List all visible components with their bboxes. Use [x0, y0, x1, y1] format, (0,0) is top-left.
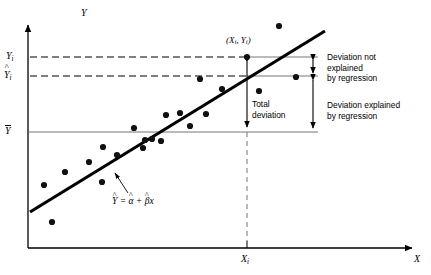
scatter-point	[100, 144, 106, 150]
reference-lines	[28, 57, 318, 132]
unexplained-deviation-annotation: Deviation not explained by regression	[327, 52, 377, 84]
y-tick-label-fitted: Yi	[4, 70, 12, 82]
scatter-point	[140, 145, 146, 151]
scatter-point	[293, 74, 299, 80]
scatter-point	[99, 179, 105, 185]
scatter-point	[131, 125, 137, 131]
point-coordinate-label: (Xi, Yi)	[226, 36, 251, 46]
scatter-point	[177, 110, 183, 116]
regression-line	[30, 31, 325, 212]
scatter-point	[244, 54, 250, 60]
equation-pointer	[115, 173, 128, 193]
plot-canvas	[0, 0, 431, 275]
explained-deviation-annotation: Deviation explained by regression	[327, 100, 400, 121]
scatter-point	[163, 112, 169, 118]
x-tick-label-xi: Xi	[241, 254, 249, 266]
y-axis-label: Y	[81, 8, 87, 18]
scatter-point	[62, 169, 68, 175]
scatter-point	[149, 136, 155, 142]
scatter-point	[49, 219, 55, 225]
y-tick-label-mean: Y	[5, 126, 11, 136]
scatter-point	[142, 137, 148, 143]
scatter-point	[276, 23, 282, 29]
scatter-point	[86, 159, 92, 165]
scatter-point	[158, 138, 164, 144]
scatter-point	[114, 152, 120, 158]
y-tick-label-observed: Yi	[6, 51, 14, 63]
scatter-point	[256, 88, 262, 94]
scatter-point	[197, 76, 203, 82]
scatter-point	[41, 182, 47, 188]
regression-deviation-diagram: Y X Yi Yi Y Xi (Xi, Yi) Y = α + βx Total…	[0, 0, 431, 275]
regression-equation-label: Y = α + βx	[112, 197, 154, 207]
total-deviation-annotation: Total deviation	[252, 99, 286, 120]
scatter-point	[187, 123, 193, 129]
scatter-point	[219, 86, 225, 92]
x-axis-label: X	[414, 254, 420, 264]
scatter-points	[41, 23, 299, 225]
scatter-point	[203, 111, 209, 117]
